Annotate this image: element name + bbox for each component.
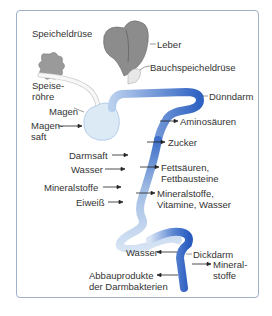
label-bacteria-line1: Abbauprodukte <box>89 270 153 281</box>
label-fats-line2: Fettbausteine <box>161 173 219 184</box>
label-esophagus-line2: röhre <box>32 91 54 102</box>
label-colon-minerals-line1: Mineral- <box>213 259 247 270</box>
label-vitamins-line1: Mineralstoffe, <box>157 188 214 199</box>
label-salivary-gland: Speicheldrüse <box>32 28 92 39</box>
label-minerals: Mineralstoffe <box>44 182 98 193</box>
label-gastric-juice-line1: Magen- <box>31 120 63 131</box>
label-pancreas: Bauchspeicheldrüse <box>150 62 236 73</box>
label-stomach: Magen <box>49 106 78 117</box>
label-bacteria-line2: der Darmbakterien <box>89 281 168 292</box>
label-vitamins-line2: Vitamine, Wasser <box>157 199 231 210</box>
label-protein: Eiweiß <box>76 197 105 208</box>
label-esophagus-line1: Speise- <box>32 80 64 91</box>
liver-icon <box>104 21 149 76</box>
label-small-intestine: Dünndarm <box>209 91 253 102</box>
label-colon-minerals-line2: stoffe <box>213 270 236 281</box>
label-amino-acids: Aminosäuren <box>180 116 236 127</box>
label-water: Wasser <box>71 164 103 175</box>
label-gastric-juice-line2: saft <box>31 131 46 142</box>
label-intestinal-juice: Darmsaft <box>69 150 108 161</box>
label-liver: Leber <box>157 39 181 50</box>
label-fats-line1: Fettsäuren, <box>161 162 209 173</box>
label-sugar: Zucker <box>168 137 197 148</box>
label-colon-water: Wasser <box>126 247 158 258</box>
